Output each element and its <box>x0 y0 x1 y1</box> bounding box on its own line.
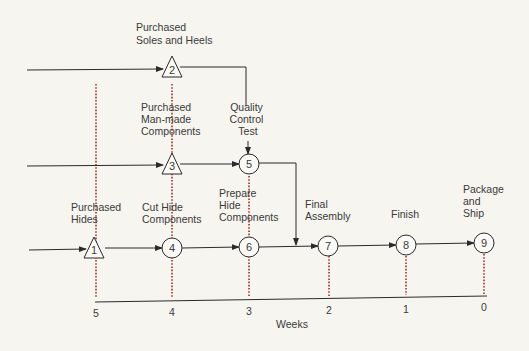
axis-title: Weeks <box>276 318 308 330</box>
axis-tick: 0 <box>481 301 487 313</box>
node-9: 9 <box>474 233 494 253</box>
label-purchased-soles-and-heels: Purchased Soles and Heels <box>136 21 212 46</box>
node-number: 7 <box>325 240 331 252</box>
axis-tick: 3 <box>246 305 252 317</box>
axis-tick: 2 <box>326 304 332 316</box>
label-final-assembly: Final Assembly <box>305 198 351 222</box>
axis-line <box>95 296 487 302</box>
node-2: 2 <box>162 56 182 77</box>
node-number: 8 <box>403 239 409 251</box>
node-3: 3 <box>162 153 182 174</box>
node-1: 1 <box>84 237 104 258</box>
node-number: 2 <box>169 64 175 76</box>
node-6: 6 <box>239 237 259 257</box>
node-number: 1 <box>91 244 97 256</box>
axis-tick: 4 <box>169 306 175 318</box>
node-5: 5 <box>239 154 259 174</box>
shoe-production-network-diagram: 2 3 1 5 4 6 7 8 9 Purchased Soles and He… <box>0 0 529 351</box>
label-quality-control-test: Quality Control Test <box>230 101 267 137</box>
axis-tick: 5 <box>93 307 99 319</box>
label-finish: Finish <box>391 208 419 220</box>
label-package-and-ship: Package and Ship <box>463 183 507 219</box>
node-8: 8 <box>396 235 416 255</box>
weeks-axis: 5 4 3 2 1 0 Weeks <box>93 296 487 330</box>
label-purchased-man-made-components: Purchased Man-made Components <box>141 101 201 137</box>
axis-tick: 1 <box>403 303 409 315</box>
label-cut-hide-components: Cut Hide Components <box>142 201 202 225</box>
node-number: 9 <box>481 237 487 249</box>
node-number: 5 <box>246 158 252 170</box>
node-number: 4 <box>169 242 175 254</box>
node-7: 7 <box>318 236 338 256</box>
node-4: 4 <box>162 238 182 258</box>
label-purchased-hides: Purchased Hides <box>71 201 124 225</box>
node-number: 6 <box>246 241 252 253</box>
node-number: 3 <box>169 160 175 172</box>
